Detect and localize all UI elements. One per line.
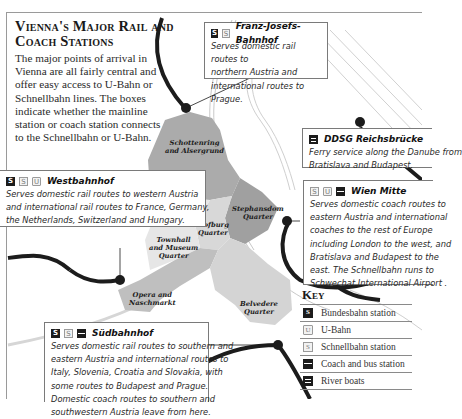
u-bahn-icon: U — [32, 177, 41, 186]
key-item-label: Schnellbahn station — [321, 342, 396, 352]
station-name: Westbahnhof — [47, 175, 114, 188]
station-description-line: Ferry service along the Danube from — [309, 146, 426, 159]
bundesbahn-icon: S — [6, 177, 15, 186]
schnellbahn-icon: S — [19, 177, 28, 186]
station-box-suedbahnhof: S S Südbahnhof Serves domestic rail rout… — [44, 322, 209, 402]
station-description-line: some routes to Budapest and Prague. — [51, 380, 202, 393]
station-name: DDSG Reichsbrücke — [324, 133, 423, 146]
station-description-line: eastern Austria and international routes… — [51, 353, 202, 366]
bundesbahn-icon: S — [303, 308, 313, 318]
station-description-line: international routes to Prague. — [211, 80, 321, 106]
key-item-u-bahn: U U-Bahn — [300, 322, 412, 339]
schnellbahn-icon: S — [222, 29, 230, 38]
rail-line-westbahnhof — [8, 256, 70, 270]
key-item-label: Coach and bus station — [321, 359, 405, 369]
schnellbahn-icon: S — [64, 329, 73, 338]
quarter-label-townhall: Townhalland MuseumQuarter — [149, 236, 198, 260]
station-box-wien-mitte: S U Wien Mitte Serves domestic coach rou… — [303, 180, 433, 285]
quarter-label-belvedere: BelvedereQuarter — [240, 300, 278, 316]
station-description-line: Italy, Slovenia, Croatia and Slovakia, w… — [51, 366, 202, 379]
schnellbahn-icon: S — [310, 187, 319, 196]
station-description-line: including London to the west, and — [310, 238, 427, 251]
u-bahn-icon: U — [323, 187, 332, 196]
station-name: Südbahnhof — [92, 327, 153, 340]
quarter-label-schottenring: Schottenringand Alsergrund — [165, 139, 224, 155]
key-item-river-boats: River boats — [300, 373, 412, 390]
coach-icon — [336, 187, 345, 196]
key-title: Key — [300, 287, 412, 305]
station-description-line: coaches to the rest of Europe — [310, 224, 427, 237]
river-boat-icon — [309, 135, 318, 144]
key-item-label: U-Bahn — [321, 325, 351, 335]
station-box-ddsg: DDSG Reichsbrücke Ferry service along th… — [302, 128, 432, 168]
station-box-franz-josefs: S S Franz-Josefs-Bahnhof Serves domestic… — [204, 22, 328, 79]
coach-icon — [77, 329, 86, 338]
key-item-label: Bundesbahn station — [321, 308, 396, 318]
station-description-line: Serves domestic coach routes to — [310, 198, 427, 211]
station-description-line: Serves domestic rail routes to southern … — [51, 340, 202, 353]
coach-icon — [303, 359, 313, 369]
key-item-bundesbahn: S Bundesbahn station — [300, 305, 412, 322]
bundesbahn-icon: S — [211, 29, 218, 38]
schnellbahn-icon: S — [303, 342, 313, 352]
station-description-line: eastern Austria and international — [310, 211, 427, 224]
station-description-line: Serves domestic rail routes to western A… — [6, 188, 199, 201]
station-description-line: east. The Schnellbahn runs to — [310, 264, 427, 277]
map-title: Vienna's Major Rail and Coach Stations — [15, 19, 175, 49]
quarter-label-opera: Opera andNaschmarkt — [129, 291, 176, 307]
bundesbahn-icon: S — [51, 329, 60, 338]
station-description-line: southwestern Austria leave from here. — [51, 406, 202, 419]
station-description-line: and international rail routes to France,… — [6, 201, 199, 214]
station-description-line: the Netherlands, Switzerland and Hungary… — [6, 214, 199, 227]
key-item-label: River boats — [321, 376, 365, 386]
station-description-line: Domestic coach routes to southern and — [51, 393, 202, 406]
station-description-line: Bratislava and Budapest. — [309, 159, 426, 172]
key-item-schnellbahn: S Schnellbahn station — [300, 339, 412, 356]
key-item-coach: Coach and bus station — [300, 356, 412, 373]
river-boat-icon — [303, 376, 313, 386]
station-description-line: northern Austria and — [211, 66, 321, 79]
map-key: Key S Bundesbahn station U U-Bahn S Schn… — [300, 287, 412, 390]
station-name: Wien Mitte — [351, 185, 406, 198]
station-description-line: Bratislava and Budapest to the — [310, 251, 427, 264]
map-intro-text: The major points of arrival in Vienna ar… — [15, 52, 163, 144]
quarter-label-stephansdom: StephansdomQuarter — [232, 205, 284, 221]
station-box-westbahnhof: S S U Westbahnhof Serves domestic rail r… — [0, 170, 206, 227]
u-bahn-icon: U — [303, 325, 313, 335]
